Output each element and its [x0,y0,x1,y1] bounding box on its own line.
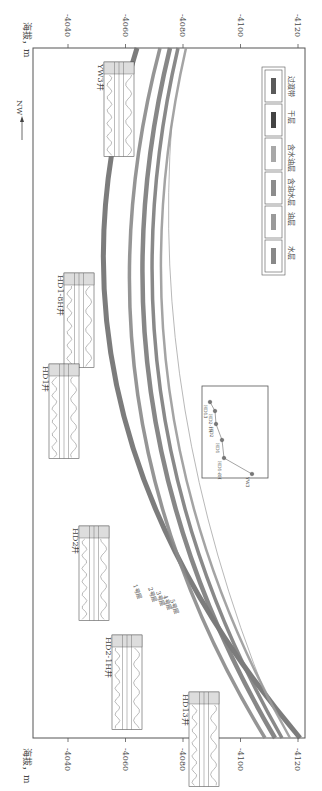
bottom-axis: 海拔，m -4040-4060-4080-4100-4120 [22,738,302,784]
well-marker-icon [208,400,212,404]
legend-swatch [271,112,276,128]
legend-item: 含水油层 [265,138,296,172]
tick-label: -4100 [236,14,245,37]
legend-swatch [271,146,276,162]
tick-label: -4060 [121,748,130,771]
tick-label: -4040 [63,14,72,37]
legend-item: 油层 [265,206,296,238]
tick-label: -4120 [293,748,302,771]
well-marker-icon [220,438,224,442]
legend-label: 油层 [287,212,296,226]
layer-label: 1号层 [131,583,144,601]
legend: 过渡带干层含水油层含油水层油层水层 [262,67,296,275]
inset-well-label: HD13 [203,405,208,418]
well-log: HD2井 [71,526,109,620]
axis-label-top: 海拔，m [22,22,33,58]
tick-label: -4120 [293,14,302,37]
well-log: HD13井 [181,692,219,786]
well-log: HD1-8H井 [56,273,94,367]
inset-map: HD13HD2-1HHD2HD1HD1-8HYW3 [202,386,268,488]
legend-label: 干层 [287,110,295,124]
tick-label: -4060 [121,14,130,37]
tick-label: -4100 [236,748,245,771]
direction-label: NW [15,100,24,116]
axis-label-bottom: 海拔，m [22,748,33,784]
legend-label: 水层 [287,246,296,260]
inset-well-label: HD1-8H [217,461,222,480]
well-logs: YW3井HD1-8H井HD1井HD2井HD2-1H井HD13井 [41,62,219,786]
legend-label: 含水油层 [287,144,296,172]
legend-swatch [271,248,276,264]
legend-item: 含油水层 [265,172,296,206]
legend-swatch [271,78,276,94]
legend-label: 含油水层 [287,178,296,206]
direction-indicator: NW [15,100,24,140]
inset-well-label: YW3 [245,476,250,488]
layer-labels: 1号层2号层3号层4号层5号层 [131,583,181,616]
well-marker-icon [213,409,217,413]
tick-label: -4080 [178,14,187,37]
tick-label: -4080 [178,748,187,771]
cross-section-diagram: 海拔，m -4040-4060-4080-4100-4120 海拔，m -404… [0,0,322,791]
legend-item: 干层 [265,104,295,136]
inset-well-label: HD1 [215,443,220,454]
top-axis: 海拔，m -4040-4060-4080-4100-4120 [22,14,302,58]
well-marker-icon [250,472,254,476]
well-log: HD2-1H井 [104,635,142,729]
well-log: YW3井 [96,62,134,156]
tick-label: -4040 [63,748,72,771]
legend-label: 过渡带 [287,76,296,97]
well-marker-icon [222,456,226,460]
legend-item: 过渡带 [265,70,296,102]
legend-item: 水层 [265,240,296,272]
legend-swatch [271,180,276,196]
legend-swatch [271,214,276,230]
well-marker-icon [214,422,218,426]
well-log: HD1井 [41,364,79,458]
arrow-head-icon [20,116,24,122]
inset-well-label: HD2 [209,427,214,438]
